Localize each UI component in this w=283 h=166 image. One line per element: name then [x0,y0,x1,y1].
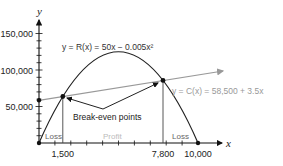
break-even-label: Break-even points [73,112,142,122]
cost-intercept-point [37,98,41,102]
x-tick-1500: 1,500 [52,149,75,159]
cost-equation: y = C(x) = 58,500 + 3.5x [172,86,264,96]
x-tick-7800: 7,800 [152,149,175,159]
x-axis: x 1,500 7,800 10,000 [39,137,231,159]
x-tick-10000: 10,000 [184,149,212,159]
break-even-point-2 [161,78,166,83]
revenue-equation: y = R(x) = 50x − 0.005x² [62,42,154,52]
y-tick-150000: 150,000 [0,29,33,39]
loss-region-right: Loss [172,132,189,141]
break-even-chart: y 150,000 100,000 50,000 x 1,500 7,800 1… [0,0,283,166]
profit-region: Profit [103,132,122,141]
break-even-point-1 [60,94,65,99]
loss-region-left: Loss [45,132,62,141]
y-axis: y 150,000 100,000 50,000 [0,5,42,144]
y-tick-100000: 100,000 [0,66,33,76]
break-even-arrows [67,83,158,109]
x-axis-label: x [225,137,231,149]
x-intercept-point [196,141,200,145]
origin-point [37,141,41,145]
y-axis-label: y [36,5,42,17]
y-tick-50000: 50,000 [5,102,33,112]
